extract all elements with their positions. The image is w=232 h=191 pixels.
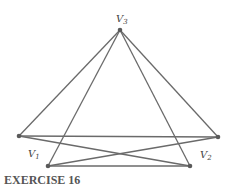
vertex-label-V1: V1: [28, 148, 40, 161]
edge-V3-B1: [48, 30, 120, 166]
vertices: [17, 28, 221, 169]
edge-V2-B1: [48, 137, 218, 166]
exercise-caption: EXERCISE 16: [4, 173, 80, 188]
vertex-V3: [118, 28, 123, 33]
vertex-V1: [17, 134, 22, 139]
edge-V1-V2: [19, 136, 218, 137]
vertex-label-V2: V2: [200, 149, 212, 162]
edge-V3-V2: [120, 30, 218, 137]
edge-V3-V1: [19, 30, 120, 136]
vertex-B2: [188, 164, 193, 169]
edge-V3-B2: [120, 30, 190, 166]
edges: [19, 30, 218, 166]
vertex-label-V3: V3: [116, 13, 128, 26]
edge-V1-B2: [19, 136, 190, 166]
vertex-labels: V3V1V2: [28, 13, 212, 162]
vertex-B1: [46, 164, 51, 169]
vertex-V2: [216, 135, 221, 140]
graph-diagram: V3V1V2: [0, 0, 232, 191]
